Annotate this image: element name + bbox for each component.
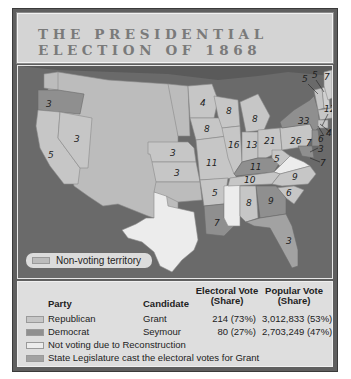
label-arkansas: 5 — [212, 188, 218, 198]
party-republican: Republican — [48, 313, 96, 324]
popular-grant: 3,012,833 (53%) — [262, 313, 332, 324]
legislature-swatch — [26, 355, 44, 362]
label-indiana: 13 — [246, 140, 258, 150]
us-map: 3 5 3 3 3 4 8 11 5 7 8 16 8 13 21 11 10 … — [17, 65, 333, 279]
label-vermont: 5 — [302, 74, 308, 84]
label-ohio: 21 — [264, 136, 275, 146]
label-nebraska: 3 — [170, 148, 176, 158]
label-wisconsin: 8 — [226, 106, 232, 116]
label-kansas: 3 — [174, 168, 180, 178]
label-west-virginia: 5 — [274, 154, 280, 164]
label-iowa: 8 — [204, 124, 210, 134]
map-frame: THE PRESIDENTIAL ELECTION OF 1868 — [12, 8, 338, 372]
label-missouri: 11 — [206, 158, 217, 168]
label-georgia: 9 — [268, 196, 274, 206]
label-pennsylvania: 26 — [290, 136, 302, 146]
republican-swatch — [26, 316, 44, 323]
not-voting-label: Not voting due to Reconstruction — [48, 339, 186, 350]
label-nevada: 3 — [74, 134, 80, 144]
label-new-hampshire: 5 — [312, 70, 318, 80]
label-maryland: 7 — [320, 158, 326, 168]
not-voting-swatch — [26, 342, 44, 349]
label-new-jersey: 7 — [306, 138, 312, 148]
header-party: Party — [48, 299, 72, 309]
title-line-2: ELECTION OF 1868 — [38, 42, 261, 58]
label-tennessee: 10 — [244, 175, 256, 185]
header-electoral-line2: (Share) — [211, 295, 244, 306]
title-banner: THE PRESIDENTIAL ELECTION OF 1868 — [17, 13, 333, 63]
header-popular-line2: (Share) — [278, 295, 311, 306]
label-massachusetts: 12 — [324, 104, 332, 114]
candidate-grant: Grant — [143, 313, 167, 324]
results-legend: Party Candidate Electoral Vote (Share) P… — [17, 281, 333, 367]
label-florida: 3 — [286, 236, 292, 246]
party-democrat: Democrat — [48, 326, 89, 337]
label-california: 5 — [48, 150, 54, 160]
label-alabama: 8 — [246, 198, 252, 208]
header-electoral: Electoral Vote (Share) — [192, 286, 262, 306]
popular-seymour: 2,703,249 (47%) — [262, 326, 332, 337]
label-michigan: 8 — [252, 114, 258, 124]
non-voting-territory-legend: Non-voting territory — [26, 253, 152, 268]
us-map-svg: 3 5 3 3 3 4 8 11 5 7 8 16 8 13 21 11 10 … — [18, 66, 332, 278]
territory-legend-label: Non-voting territory — [56, 255, 141, 266]
header-candidate: Candidate — [143, 299, 189, 309]
label-new-york: 33 — [298, 116, 310, 126]
label-maine: 7 — [324, 72, 330, 82]
label-oregon: 3 — [46, 99, 52, 109]
label-delaware: 3 — [318, 144, 324, 154]
label-minnesota: 4 — [200, 98, 206, 108]
label-rhode-island: 4 — [326, 128, 332, 138]
electoral-grant: 214 (73%) — [194, 313, 256, 324]
label-louisiana: 7 — [214, 218, 220, 228]
label-south-carolina: 6 — [286, 188, 292, 198]
header-popular: Popular Vote (Share) — [258, 286, 330, 306]
map-title: THE PRESIDENTIAL ELECTION OF 1868 — [38, 26, 268, 58]
label-north-carolina: 9 — [292, 172, 298, 182]
democrat-swatch — [26, 329, 44, 336]
legislature-label: State Legislature cast the electoral vot… — [48, 352, 259, 363]
territory-swatch — [32, 257, 50, 264]
label-illinois: 16 — [228, 140, 240, 150]
candidate-seymour: Seymour — [143, 326, 181, 337]
label-connecticut: 6 — [318, 134, 324, 144]
electoral-seymour: 80 (27%) — [194, 326, 256, 337]
label-kentucky: 11 — [250, 162, 261, 172]
title-line-1: THE PRESIDENTIAL — [38, 26, 268, 42]
